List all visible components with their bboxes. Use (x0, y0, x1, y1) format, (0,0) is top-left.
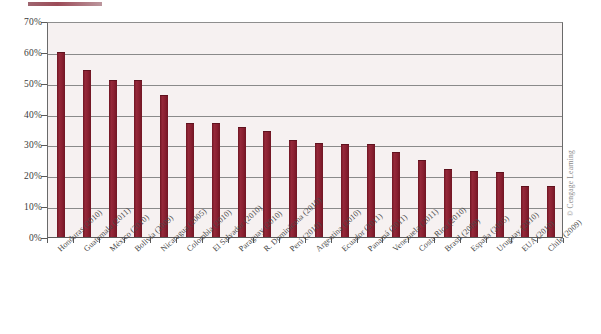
gridline (48, 54, 562, 55)
gridline (48, 177, 562, 178)
gridline (48, 116, 562, 117)
x-axis-tick-mark (47, 238, 48, 243)
y-axis-tick-label: 20% (2, 171, 42, 181)
y-axis-tick-label: 0% (2, 233, 42, 243)
top-decorative-rule (28, 2, 102, 6)
bar (109, 80, 117, 237)
bar (134, 80, 142, 237)
gridline (48, 85, 562, 86)
y-axis-tick-mark (41, 115, 47, 116)
gridline (48, 146, 562, 147)
y-axis-tick-mark (41, 84, 47, 85)
y-axis-tick-label: 40% (2, 110, 42, 120)
chart-figure: 70%60%50%40%30%20%10%0% Honduras (2010)G… (0, 0, 601, 334)
y-axis-tick-mark (41, 176, 47, 177)
y-axis-tick-label: 30% (2, 140, 42, 150)
copyright-credit: © Cengage Learning (566, 150, 575, 216)
y-axis-tick-mark (41, 22, 47, 23)
y-axis-tick-label: 50% (2, 79, 42, 89)
y-axis-tick-label: 10% (2, 202, 42, 212)
y-axis-tick-mark (41, 207, 47, 208)
y-axis-tick-label: 70% (2, 17, 42, 27)
y-axis-tick-mark (41, 53, 47, 54)
bar (57, 52, 65, 237)
bar (83, 70, 91, 237)
y-axis-tick-mark (41, 145, 47, 146)
y-axis-tick-label: 60% (2, 48, 42, 58)
